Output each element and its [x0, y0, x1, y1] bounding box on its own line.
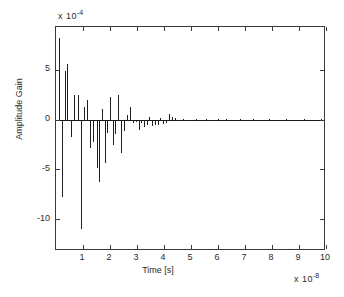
stem-bar: [90, 120, 91, 149]
x-tick-label: 4: [153, 252, 173, 262]
x-tick-mark: [245, 245, 246, 249]
stem-bar: [99, 120, 100, 183]
stem-bar: [87, 100, 88, 120]
stem-bar: [84, 107, 85, 120]
stem-bar: [71, 120, 72, 138]
stem-bar: [158, 120, 159, 125]
x-axis-title-text: Time [s]: [142, 265, 174, 275]
x-tick-mark: [191, 27, 192, 31]
stem-bar: [166, 120, 167, 123]
stem-bar: [144, 120, 145, 127]
x-tick-mark: [191, 245, 192, 249]
stem-bar: [136, 120, 137, 122]
stem-bar: [253, 119, 254, 120]
x-tick-mark: [110, 245, 111, 249]
y-tick-label: 5: [24, 63, 50, 74]
x-tick-mark: [164, 245, 165, 249]
x-tick-mark: [272, 27, 273, 31]
stem-bar: [130, 107, 131, 119]
stem-bar: [107, 120, 108, 133]
stem-bar: [175, 118, 176, 120]
stem-bar: [149, 117, 150, 119]
stem-bar: [147, 120, 148, 125]
x-tick-label: 7: [234, 252, 254, 262]
y-tick-mark: [320, 70, 324, 71]
stem-bar: [81, 120, 82, 230]
stem-bar: [97, 120, 98, 169]
stem-bar: [240, 119, 241, 120]
stem-bar: [118, 95, 119, 120]
stem-bar: [152, 120, 153, 126]
x-tick-mark: [137, 27, 138, 31]
stem-bar: [78, 95, 79, 119]
y-tick-label: -5: [24, 163, 50, 174]
stem-bar: [286, 119, 287, 120]
y-axis-exponent-label: x 10-4: [58, 9, 83, 21]
stem-bar: [226, 119, 227, 120]
stem-bar: [110, 97, 111, 120]
y-axis-title: Amplitude Gain: [14, 49, 24, 169]
stem-bar: [124, 120, 125, 131]
x-tick-label: 2: [99, 252, 119, 262]
x-tick-label: 1: [72, 252, 92, 262]
x-tick-label: 3: [126, 252, 146, 262]
stem-bar: [169, 114, 170, 119]
stem-bar: [183, 119, 184, 120]
y-tick-label: 0: [24, 113, 50, 124]
x-tick-mark: [83, 27, 84, 31]
stem-bar: [133, 120, 134, 123]
stem-bar: [163, 120, 164, 124]
x-tick-mark: [137, 245, 138, 249]
stem-bar: [155, 120, 156, 125]
stem-bar: [93, 120, 94, 143]
x-tick-mark: [83, 245, 84, 249]
y-tick-mark: [56, 219, 60, 220]
stem-bar: [113, 120, 114, 146]
x-tick-mark: [245, 27, 246, 31]
stem-bar: [172, 117, 173, 120]
stem-bar: [304, 119, 305, 120]
stem-bar: [59, 38, 60, 120]
stem-bar: [218, 119, 219, 120]
y-exponent-base: x 10: [58, 11, 77, 21]
x-axis-title: Time [s]: [0, 265, 344, 275]
stem-bar: [67, 64, 68, 120]
stem-bar: [188, 120, 189, 121]
y-tick-mark: [56, 70, 60, 71]
y-tick-mark: [320, 219, 324, 220]
stem-bar: [160, 118, 161, 120]
stem-bar: [105, 120, 106, 164]
stem-bar: [206, 119, 207, 120]
x-tick-mark: [272, 245, 273, 249]
plot-area: [55, 26, 325, 250]
x-tick-mark: [326, 27, 327, 31]
stem-bar: [269, 119, 270, 120]
stem-bar: [141, 120, 142, 123]
stem-bar: [121, 120, 122, 154]
stem-bar: [213, 120, 214, 121]
stem-bar: [196, 119, 197, 120]
stem-bar: [62, 120, 63, 198]
x-tick-label: 9: [288, 252, 308, 262]
y-tick-mark: [320, 120, 324, 121]
x-exponent-base: x 10: [294, 274, 313, 284]
stem-bar: [74, 95, 75, 120]
y-tick-mark: [56, 120, 60, 121]
x-tick-mark: [218, 245, 219, 249]
y-tick-mark: [56, 169, 60, 170]
y-tick-mark: [320, 169, 324, 170]
stem-bar: [179, 120, 180, 121]
x-tick-label: 6: [207, 252, 227, 262]
stem-bar: [115, 120, 116, 134]
y-exponent-power: -4: [77, 9, 83, 16]
x-tick-mark: [164, 27, 165, 31]
figure-canvas: x 10-4 12345678910 50-5-10 Time [s] Ampl…: [0, 0, 344, 297]
x-tick-mark: [110, 27, 111, 31]
x-tick-mark: [299, 245, 300, 249]
x-tick-mark: [218, 27, 219, 31]
stem-bar: [102, 109, 103, 120]
y-tick-label: -10: [24, 213, 50, 224]
stem-bar: [127, 115, 128, 119]
x-tick-label: 5: [180, 252, 200, 262]
x-axis-exponent-label: x 10-8: [294, 272, 319, 284]
